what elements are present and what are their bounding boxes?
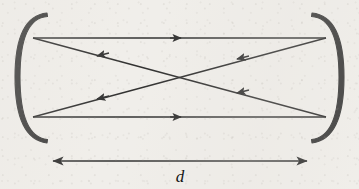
upper-left-diagonal-arrow xyxy=(97,53,109,56)
figure-canvas xyxy=(0,0,359,189)
right-mirror xyxy=(312,13,345,143)
ray-arrowhead-group xyxy=(97,38,249,117)
lower-right-diagonal-arrow xyxy=(237,90,249,93)
optical-resonator-figure: d xyxy=(0,0,359,189)
ray-group xyxy=(33,38,326,117)
distance-label: d xyxy=(176,168,185,185)
left-mirror xyxy=(15,13,48,143)
